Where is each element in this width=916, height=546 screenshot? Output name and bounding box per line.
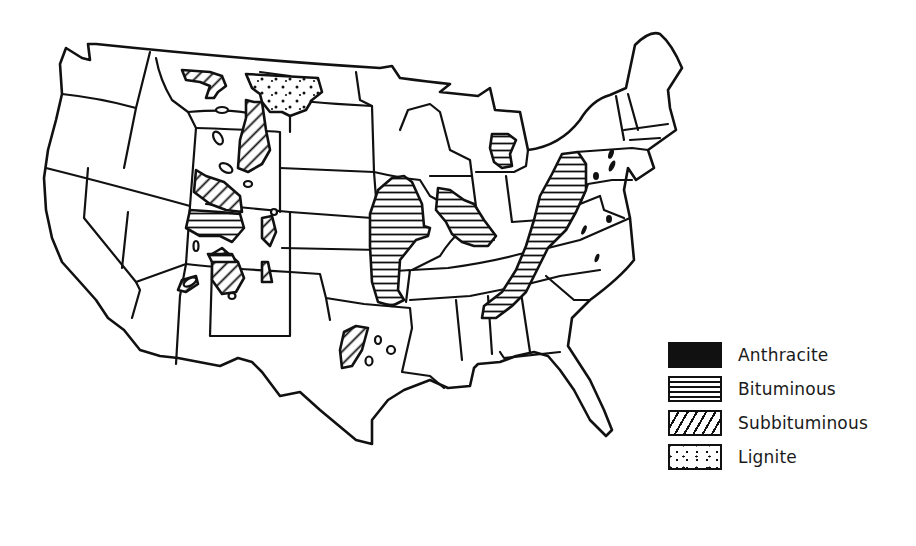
legend-item-subbituminous: Subbituminous — [668, 408, 868, 437]
bituminous-swatch-icon — [668, 376, 722, 402]
legend-label: Anthracite — [738, 345, 828, 365]
lignite-swatch-icon — [668, 444, 722, 470]
legend-label: Lignite — [738, 447, 797, 467]
anthracite-swatch-icon — [668, 342, 722, 368]
legend-item-bituminous: Bituminous — [668, 374, 868, 403]
legend: Anthracite Bituminous Subbituminous Lign… — [668, 340, 868, 476]
legend-item-anthracite: Anthracite — [668, 340, 868, 369]
legend-label: Bituminous — [738, 379, 836, 399]
legend-item-lignite: Lignite — [668, 442, 868, 471]
subbituminous-swatch-icon — [668, 410, 722, 436]
legend-label: Subbituminous — [738, 413, 868, 433]
